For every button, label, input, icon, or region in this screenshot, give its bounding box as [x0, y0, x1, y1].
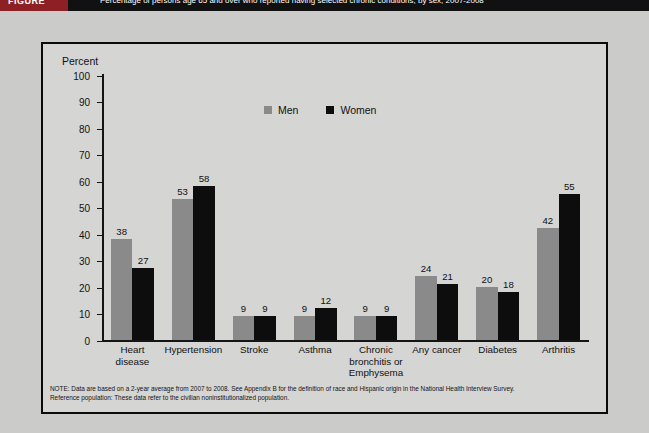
y-tick-label: 40	[79, 229, 90, 240]
y-tick-label: 20	[79, 282, 90, 293]
bar-value-label: 18	[503, 279, 514, 290]
bar-women: 55	[559, 194, 581, 340]
y-tick	[97, 102, 102, 103]
bar-women: 27	[132, 268, 154, 340]
y-tick-label: 50	[79, 203, 90, 214]
note-line-1: NOTE: Data are based on a 2-year average…	[50, 385, 602, 394]
y-tick	[97, 129, 102, 130]
y-tick	[97, 76, 102, 77]
bar-value-label: 27	[138, 255, 149, 266]
figure-banner: FIGURE Percentage of persons age 65 and …	[0, 0, 649, 11]
chart-panel: Percent MenWomen 01020304050607080901003…	[41, 42, 608, 414]
source-credit: Source: Centers for Disease Control and …	[14, 41, 40, 433]
y-tick	[97, 314, 102, 315]
bar-value-label: 9	[302, 303, 307, 314]
bar-value-label: 42	[542, 215, 553, 226]
bar-men: 53	[172, 199, 194, 339]
bar-women: 12	[315, 308, 337, 340]
bar-value-label: 55	[564, 181, 575, 192]
bar-women: 21	[437, 284, 459, 340]
y-axis-line	[102, 74, 104, 341]
bar-men: 9	[294, 316, 316, 340]
y-tick-label: 60	[79, 176, 90, 187]
bar-value-label: 38	[116, 226, 127, 237]
y-tick-label: 100	[73, 70, 90, 81]
y-tick	[97, 182, 102, 183]
y-tick-label: 70	[79, 150, 90, 161]
figure-notes: NOTE: Data are based on a 2-year average…	[50, 385, 602, 402]
bar-value-label: 21	[442, 271, 453, 282]
bar-value-label: 20	[482, 274, 493, 285]
banner-title: Percentage of persons age 65 and over wh…	[100, 0, 484, 5]
bar-value-label: 24	[421, 263, 432, 274]
page-background: Source: Centers for Disease Control and …	[0, 11, 649, 433]
y-axis-title: Percent	[62, 55, 98, 67]
y-tick-label: 90	[79, 97, 90, 108]
bar-men: 20	[476, 287, 498, 340]
y-tick-label: 10	[79, 309, 90, 320]
y-tick	[97, 155, 102, 156]
figure-screenshot: FIGURE Percentage of persons age 65 and …	[0, 0, 649, 433]
source-credit-text: Source: Centers for Disease Control and …	[0, 41, 14, 433]
bar-women: 9	[376, 316, 398, 340]
banner-tag: FIGURE	[8, 0, 45, 6]
bar-men: 9	[233, 316, 255, 340]
x-axis-line	[102, 340, 589, 342]
y-tick	[97, 288, 102, 289]
x-axis-label: Arthritis	[519, 344, 599, 356]
bar-value-label: 53	[177, 186, 188, 197]
bar-value-label: 9	[262, 303, 267, 314]
bar-men: 9	[354, 316, 376, 340]
bar-men: 42	[537, 228, 559, 339]
note-line-2: Reference population: These data refer t…	[50, 394, 602, 403]
y-tick-label: 80	[79, 123, 90, 134]
bar-value-label: 9	[241, 303, 246, 314]
bar-women: 18	[498, 292, 520, 340]
bar-value-label: 12	[320, 295, 331, 306]
bar-men: 24	[415, 276, 437, 340]
y-tick	[97, 235, 102, 236]
bar-men: 38	[111, 239, 133, 340]
y-tick-label: 0	[84, 335, 90, 346]
plot-area: 0102030405060708090100382753589991299242…	[102, 74, 589, 341]
y-tick	[97, 261, 102, 262]
bar-value-label: 9	[363, 303, 368, 314]
y-tick-label: 30	[79, 256, 90, 267]
bar-women: 58	[193, 186, 215, 340]
bar-value-label: 9	[384, 303, 389, 314]
bar-value-label: 58	[199, 173, 210, 184]
y-tick	[97, 208, 102, 209]
bar-women: 9	[254, 316, 276, 340]
y-tick	[97, 341, 102, 342]
